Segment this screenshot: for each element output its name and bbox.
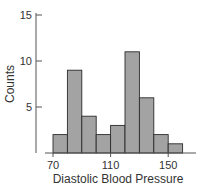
x-axis-ticks: 70110150 (47, 153, 178, 171)
histogram-bars (53, 52, 183, 153)
histogram-bar (82, 116, 96, 153)
y-tick-label: 15 (20, 9, 32, 21)
histogram-bar (53, 135, 67, 153)
y-tick-label: 5 (26, 101, 32, 113)
histogram-bar (168, 144, 182, 153)
y-tick-label: 10 (20, 55, 32, 67)
histogram-chart: 51015 70110150 Counts Diastolic Blood Pr… (0, 0, 202, 192)
histogram-bar (154, 135, 168, 153)
x-tick-label: 150 (159, 159, 177, 171)
x-tick-label: 110 (102, 159, 120, 171)
x-tick-label: 70 (47, 159, 59, 171)
histogram-bar (111, 125, 125, 153)
x-axis-label: Diastolic Blood Pressure (53, 172, 184, 186)
histogram-bar (125, 52, 139, 153)
y-axis-label: Counts (3, 65, 17, 103)
histogram-bar (96, 135, 110, 153)
histogram-bar (67, 70, 81, 153)
histogram-bar (139, 98, 153, 153)
y-axis-ticks: 51015 (20, 9, 42, 113)
